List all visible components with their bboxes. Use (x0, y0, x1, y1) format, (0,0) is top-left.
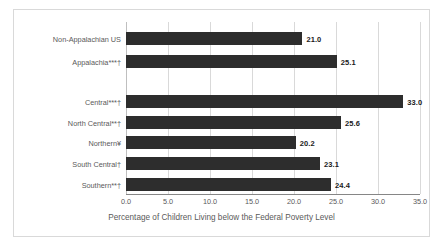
bar-value-label: 21.0 (306, 34, 321, 43)
bar (126, 157, 320, 170)
x-axis-line (126, 194, 420, 195)
gridline-35-0 (420, 22, 421, 194)
x-tick-label: 0.0 (121, 197, 131, 206)
bar-value-label: 25.6 (345, 118, 360, 127)
bar-row: Non-Appalachian US21.0 (126, 32, 420, 45)
category-label: South Central† (72, 159, 121, 168)
bar (126, 136, 296, 149)
bar-row: Northern¥20.2 (126, 136, 420, 149)
bar (126, 178, 331, 191)
x-tick-label: 25.0 (329, 197, 343, 206)
category-label: Appalachia***† (72, 57, 121, 66)
bar (126, 55, 337, 68)
x-axis-tick-labels: 0.05.010.015.020.025.030.035.0 (126, 197, 420, 209)
bar-rows: Non-Appalachian US21.0Appalachia***†25.1… (126, 22, 420, 194)
plot-area: Non-Appalachian US21.0Appalachia***†25.1… (126, 22, 420, 194)
bar (126, 32, 302, 45)
bar-row: Southern**†24.4 (126, 178, 420, 191)
x-tick-label: 15.0 (245, 197, 259, 206)
x-tick-label: 5.0 (163, 197, 173, 206)
bar-row: Central***†33.0 (126, 95, 420, 108)
category-label: Non-Appalachian US (53, 34, 121, 43)
x-axis-title: Percentage of Children Living below the … (14, 213, 429, 222)
x-tick-label: 20.0 (287, 197, 301, 206)
category-label: Southern**† (82, 180, 121, 189)
bar-value-label: 25.1 (341, 57, 356, 66)
bar-value-label: 24.4 (335, 180, 350, 189)
x-tick-label: 35.0 (413, 197, 427, 206)
bar-value-label: 33.0 (407, 97, 422, 106)
x-tick-label: 10.0 (203, 197, 217, 206)
bar-row: North Central**†25.6 (126, 116, 420, 129)
category-label: Northern¥ (89, 138, 121, 147)
x-tick-label: 30.0 (371, 197, 385, 206)
bar-row: Appalachia***†25.1 (126, 55, 420, 68)
bar-value-label: 20.2 (300, 138, 315, 147)
bar-value-label: 23.1 (324, 159, 339, 168)
category-label: Central***† (85, 97, 121, 106)
bar-row: South Central†23.1 (126, 157, 420, 170)
bar (126, 116, 341, 129)
chart-container: Non-Appalachian US21.0Appalachia***†25.1… (13, 9, 430, 237)
category-label: North Central**† (68, 118, 121, 127)
bar (126, 95, 403, 108)
